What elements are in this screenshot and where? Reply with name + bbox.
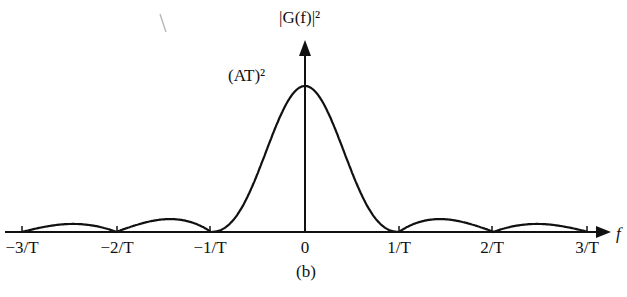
scan-mark	[160, 14, 166, 32]
x-tick-label: −2/T	[100, 238, 133, 258]
x-tick-label: 2/T	[480, 238, 504, 258]
x-tick-label: −1/T	[193, 238, 226, 258]
y-axis-label: |G(f)|²	[279, 8, 320, 28]
x-tick-label: 0	[301, 238, 310, 258]
x-axis-label: f	[616, 224, 621, 244]
plot-area	[0, 0, 627, 297]
x-tick-label: 1/T	[387, 238, 411, 258]
peak-label: (AT)²	[228, 66, 265, 86]
x-axis-arrow-icon	[596, 226, 611, 238]
x-tick-label: 3/T	[575, 238, 599, 258]
figure-caption: (b)	[296, 262, 316, 282]
x-tick-label: −3/T	[5, 238, 38, 258]
y-axis-arrow-icon	[299, 40, 311, 56]
